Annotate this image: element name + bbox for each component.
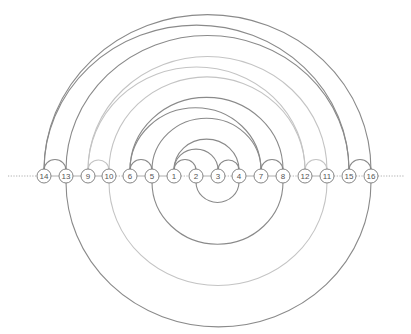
arc-above-5-7 — [152, 118, 261, 170]
node-10: 10 — [102, 169, 116, 183]
node-label: 2 — [194, 172, 199, 181]
node-2: 2 — [189, 169, 203, 183]
arc-above-6-5 — [130, 160, 152, 170]
arc-above-15-16 — [349, 160, 371, 170]
node-5: 5 — [145, 169, 159, 183]
node-label: 1 — [172, 172, 177, 181]
node-label: 10 — [105, 172, 114, 181]
arc-above-9-11 — [88, 57, 327, 170]
node-label: 9 — [86, 172, 91, 181]
node-6: 6 — [123, 169, 137, 183]
node-16: 16 — [364, 169, 378, 183]
node-15: 15 — [342, 169, 356, 183]
node-label: 5 — [150, 172, 155, 181]
node-12: 12 — [298, 169, 312, 183]
node-label: 6 — [128, 172, 133, 181]
node-label: 4 — [237, 172, 242, 181]
node-label: 8 — [281, 172, 286, 181]
node-14: 14 — [37, 169, 51, 183]
node-7: 7 — [254, 169, 268, 183]
arc-above-1-2 — [174, 160, 196, 170]
arc-above-10-12 — [109, 77, 305, 170]
node-8: 8 — [276, 169, 290, 183]
node-1: 1 — [167, 169, 181, 183]
node-4: 4 — [232, 169, 246, 183]
arc-above-9-10 — [88, 160, 109, 170]
arc-above-6-7 — [130, 108, 261, 170]
node-label: 12 — [301, 172, 310, 181]
node-label: 15 — [345, 172, 354, 181]
arc-above-1-4 — [174, 139, 239, 170]
node-label: 3 — [216, 172, 221, 181]
node-11: 11 — [320, 169, 334, 183]
arc-diagram: 14139106512347812111516 — [0, 0, 411, 334]
node-label: 16 — [367, 172, 376, 181]
node-9: 9 — [81, 169, 95, 183]
arc-above-9-12 — [88, 67, 305, 170]
arc-above-14-13 — [44, 160, 66, 170]
arc-above-7-8 — [261, 160, 283, 170]
node-label: 13 — [62, 172, 71, 181]
node-label: 14 — [40, 172, 49, 181]
node-3: 3 — [211, 169, 225, 183]
arc-above-12-11 — [305, 160, 327, 170]
node-label: 7 — [259, 172, 264, 181]
node-13: 13 — [59, 169, 73, 183]
arc-above-13-15 — [66, 36, 349, 170]
arc-below-2-4 — [196, 182, 239, 202]
arc-below-10-11 — [109, 182, 327, 285]
arc-above-14-16 — [44, 15, 371, 170]
arc-above-3-4 — [218, 160, 239, 170]
node-label: 11 — [323, 172, 332, 181]
arc-below-5-8 — [152, 182, 283, 244]
